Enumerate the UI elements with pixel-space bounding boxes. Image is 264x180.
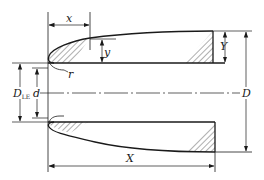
- y-dimension: y: [90, 39, 116, 62]
- diagram-canvas: x r y Y D DLE: [0, 0, 264, 180]
- y-label: y: [103, 46, 111, 59]
- X-dimension: X: [49, 152, 215, 172]
- x-label: x: [66, 12, 73, 25]
- D-LE-dimension: DLE: [12, 63, 48, 122]
- Y-label: Y: [220, 40, 229, 53]
- D-dimension: D: [241, 32, 251, 151]
- D-label: D: [241, 87, 251, 100]
- d-label: d: [33, 87, 40, 100]
- r-label: r: [68, 68, 74, 81]
- bottom-plate: [48, 116, 252, 152]
- top-plate: r: [48, 31, 225, 81]
- D-LE-label: DLE: [12, 87, 30, 100]
- X-label: X: [125, 152, 135, 165]
